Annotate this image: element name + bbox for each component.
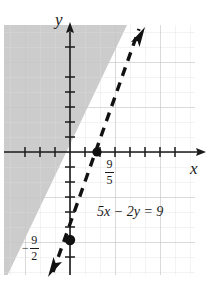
y-intercept-denominator: 2: [30, 250, 38, 263]
graph-figure: y x 5x − 2y = 9 9 5 − 9 2: [0, 0, 213, 282]
y-intercept-numerator: 9: [30, 234, 38, 247]
x-intercept-fraction: 9 5: [105, 158, 114, 186]
y-axis-label: y: [55, 11, 63, 28]
x-intercept-numerator: 9: [106, 158, 114, 171]
x-intercept-label: 9 5: [104, 158, 114, 186]
y-intercept-sign: −: [22, 241, 29, 256]
x-intercept-denominator: 5: [106, 174, 114, 187]
y-intercept-label: − 9 2: [22, 234, 39, 262]
x-axis-label: x: [190, 160, 198, 177]
equation-label: 5x − 2y = 9: [97, 205, 163, 219]
y-intercept-fraction: 9 2: [30, 234, 39, 262]
y-intercept-point: [65, 235, 75, 245]
x-intercept-point: [92, 147, 101, 156]
